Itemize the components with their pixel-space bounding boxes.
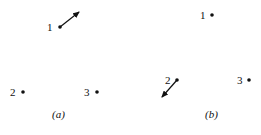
point-2: 2	[10, 86, 25, 98]
point-label: 3	[237, 74, 243, 86]
point-label: 2	[10, 86, 16, 98]
panel-a: 1 2 3 (a)	[10, 12, 99, 121]
point-label: 1	[47, 21, 53, 33]
panel-caption: (a)	[52, 108, 65, 121]
point-dot	[210, 13, 214, 17]
point-dot	[95, 90, 99, 94]
point-label: 1	[200, 9, 206, 21]
point-1: 1	[200, 9, 214, 21]
point-2: 2	[162, 74, 179, 97]
point-3: 3	[84, 86, 99, 98]
point-dot	[247, 78, 251, 82]
point-label: 2	[165, 74, 171, 86]
three-particle-diagram: 1 2 3 (a) 1 2 3 (b)	[0, 0, 261, 135]
point-label: 3	[84, 86, 90, 98]
panel-caption: (b)	[205, 108, 218, 121]
point-3: 3	[237, 74, 251, 86]
point-dot	[21, 90, 25, 94]
point-1: 1	[47, 12, 79, 33]
panel-b: 1 2 3 (b)	[162, 9, 251, 121]
arrow-up-right-icon	[60, 12, 79, 27]
